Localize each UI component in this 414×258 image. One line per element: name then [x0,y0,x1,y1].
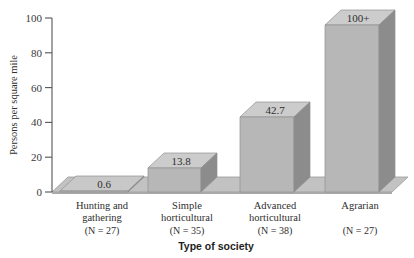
value-label-advanced-horticultural: 42.7 [265,104,285,116]
bar-side-face [294,102,310,192]
y-tick-label-60: 60 [31,82,43,94]
y-tick-label-80: 80 [31,47,43,59]
value-label-agrarian: 100+ [347,12,370,24]
x-label-advanced-horticultural-line1: Advanced [254,200,297,211]
y-tick-label-40: 40 [31,116,43,128]
y-axis-title: Persons per square mile [8,55,19,155]
x-label-simple-horticultural-line1: Simple [172,200,202,211]
bar-front-face [240,117,294,192]
x-label-agrarian-line1: Agrarian [341,200,379,211]
bar-front-face [148,168,201,192]
x-label-advanced-horticultural-n: (N = 38) [258,225,293,237]
chart-canvas: 0 20 40 60 80 100 Persons per square mil… [0,0,414,258]
x-label-hunting-and-gathering-line2: gathering [82,212,122,223]
y-tick-label-100: 100 [26,12,43,24]
y-tick-label-20: 20 [31,151,43,163]
bar-side-face [379,10,395,192]
value-label-hunting-and-gathering: 0.6 [97,178,111,190]
x-label-agrarian-n: (N = 27) [343,225,378,237]
x-label-advanced-horticultural-line2: horticultural [249,212,301,223]
bar-agrarian[interactable] [325,10,395,192]
y-axis: 0 20 40 60 80 100 Persons per square mil… [8,12,52,198]
x-axis-category-labels: Hunting and gathering (N = 27) Simple ho… [76,200,380,237]
x-label-simple-horticultural-line2: horticultural [161,212,213,223]
bar-front-face [60,191,128,192]
x-label-hunting-and-gathering-n: (N = 27) [85,225,120,237]
bar-chart-figure: 0 20 40 60 80 100 Persons per square mil… [0,0,414,258]
value-label-simple-horticultural: 13.8 [171,155,191,167]
y-tick-label-0: 0 [37,186,43,198]
x-label-hunting-and-gathering-line1: Hunting and [76,200,129,211]
x-label-simple-horticultural-n: (N = 35) [170,225,205,237]
bar-front-face [325,25,379,192]
x-axis-title: Type of society [178,240,254,252]
